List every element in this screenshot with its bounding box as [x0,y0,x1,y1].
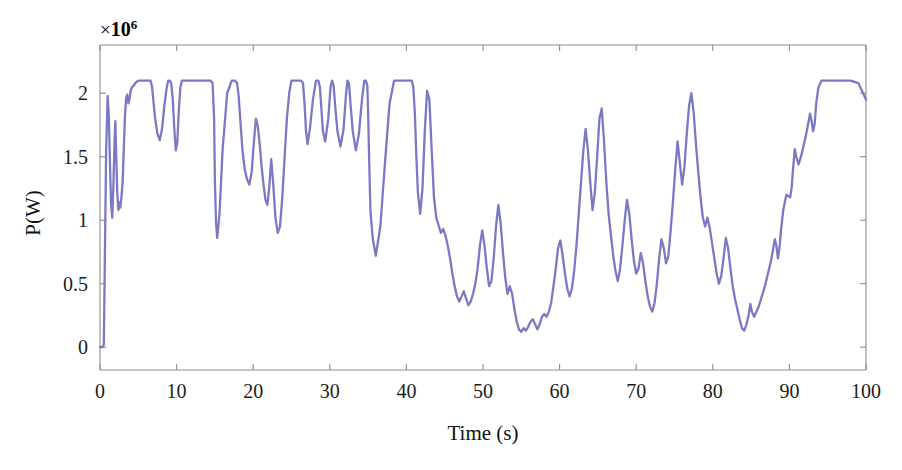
power-vs-time-chart: 0102030405060708090100 00.511.52 Time (s… [0,0,902,470]
x-tick-labels: 0102030405060708090100 [95,380,881,402]
x-tick-label: 50 [473,380,493,402]
y-tick-label: 0.5 [63,273,88,295]
y-tick-label: 1 [78,209,88,231]
y-tick-labels: 00.511.52 [63,82,88,358]
x-tick-label: 70 [626,380,646,402]
multiplier-base: 10 [111,18,131,40]
y-tick-label: 0 [78,336,88,358]
y-tick-label: 1.5 [63,146,88,168]
power-series-line [100,81,866,348]
x-tick-label: 60 [550,380,570,402]
figure-container: 0102030405060708090100 00.511.52 Time (s… [0,0,902,470]
x-tick-label: 90 [779,380,799,402]
multiplier-exponent: 6 [131,17,138,32]
x-tick-label: 40 [396,380,416,402]
x-tick-label: 80 [703,380,723,402]
y-axis-multiplier: ×106 [100,17,138,40]
x-tick-label: 30 [320,380,340,402]
multiplier-times-glyph: × [100,19,111,40]
y-axis-title: P(W) [21,190,45,236]
x-axis-title: Time (s) [448,421,519,445]
x-tick-label: 0 [95,380,105,402]
x-tick-label: 20 [243,380,263,402]
x-tick-label: 10 [167,380,187,402]
y-tick-label: 2 [78,82,88,104]
x-tick-label: 100 [851,380,881,402]
